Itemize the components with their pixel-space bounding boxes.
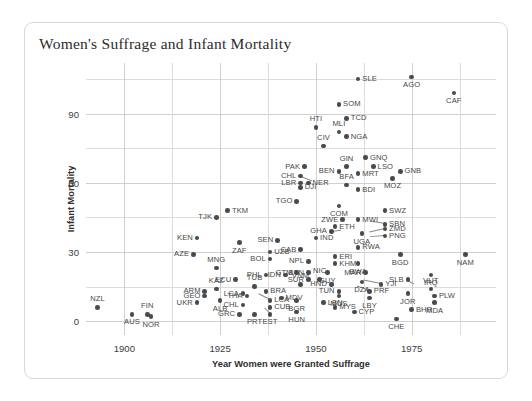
data-point: [429, 287, 434, 292]
gridline-vertical: [172, 63, 173, 335]
data-point-label: SEN: [257, 236, 273, 244]
data-point-label: NPL: [289, 257, 304, 265]
data-point: [268, 305, 273, 310]
data-point: [333, 261, 338, 266]
data-point: [325, 270, 330, 275]
data-point: [306, 181, 311, 186]
data-point: [363, 270, 368, 275]
data-point-label: BEN: [319, 167, 335, 175]
data-point: [356, 261, 361, 266]
data-point: [294, 310, 299, 315]
data-point: [130, 312, 135, 317]
y-axis-tick-label: 90: [68, 108, 79, 119]
gridline-horizontal: [86, 114, 496, 115]
data-point: [329, 229, 334, 234]
data-point: [340, 217, 345, 222]
data-point-label: NER: [312, 179, 328, 187]
data-point: [367, 289, 372, 294]
gridline-vertical: [316, 63, 317, 335]
y-axis-tick-label: 30: [68, 247, 79, 258]
data-point: [233, 277, 238, 282]
data-point-label: TKM: [232, 207, 248, 215]
data-point: [371, 164, 376, 169]
data-point: [245, 294, 250, 299]
data-point-label: TUN: [319, 287, 335, 295]
data-point-label: BDI: [362, 186, 375, 194]
x-axis-tick-label: 1900: [114, 343, 135, 354]
data-point: [202, 294, 207, 299]
data-point: [321, 144, 326, 149]
data-point-label: CAF: [446, 97, 462, 105]
data-point-label: AUS: [124, 318, 140, 326]
data-point: [268, 298, 273, 303]
data-point: [298, 181, 303, 186]
data-point-label: IND: [320, 234, 333, 242]
data-point: [321, 300, 326, 305]
data-point-label: PRT: [247, 318, 262, 326]
data-point-label: GUY: [319, 277, 336, 285]
data-point: [360, 231, 365, 236]
data-point-label: TJK: [198, 213, 212, 221]
data-point: [398, 252, 403, 257]
data-point: [337, 130, 342, 135]
data-point: [298, 247, 303, 252]
data-point: [306, 259, 311, 264]
data-point-label: NOR: [143, 321, 160, 329]
data-point-label: UKR: [177, 299, 193, 307]
data-point: [363, 155, 368, 160]
data-point: [252, 312, 257, 317]
data-point: [218, 298, 223, 303]
data-point: [383, 208, 388, 213]
data-point: [344, 164, 349, 169]
data-point: [337, 169, 342, 174]
data-point: [195, 236, 200, 241]
data-point-label: ETH: [339, 223, 355, 231]
data-point: [452, 91, 457, 96]
data-point: [237, 312, 242, 317]
data-point: [314, 125, 319, 130]
data-point-label: MLI: [332, 120, 345, 128]
data-point-label: MNG: [207, 256, 225, 264]
data-point-label: CIV: [317, 134, 330, 142]
data-point: [214, 287, 219, 292]
data-point-label: BOL: [250, 255, 266, 263]
x-axis-tick-label: 1950: [305, 343, 326, 354]
gridline-vertical: [124, 63, 125, 335]
data-point-label: BFA: [339, 173, 354, 181]
data-point-label: PHL: [247, 271, 262, 279]
data-point: [406, 277, 411, 282]
data-point: [214, 215, 219, 220]
data-point-label: CHL: [281, 172, 297, 180]
gridline-vertical: [220, 63, 221, 335]
data-point: [252, 284, 257, 289]
data-point-label: CHE: [388, 323, 404, 331]
data-point-label: HTI: [310, 115, 323, 123]
data-point: [367, 296, 372, 301]
data-point: [409, 75, 414, 80]
data-point-label: LBR: [281, 179, 296, 187]
data-point-label: HUN: [288, 316, 305, 324]
data-point-label: SWZ: [389, 207, 406, 215]
data-point: [337, 289, 342, 294]
data-point-label: SOM: [343, 100, 361, 108]
data-point: [298, 185, 303, 190]
data-point: [337, 102, 342, 107]
data-point: [344, 183, 349, 188]
data-point-label: NGA: [351, 133, 368, 141]
data-point-label: GHA: [310, 227, 327, 235]
data-point-label: PRF: [374, 287, 390, 295]
data-point-label: AGO: [403, 81, 420, 89]
data-point: [202, 289, 207, 294]
data-point-label: GNB: [404, 167, 421, 175]
data-point: [275, 238, 280, 243]
gridline-horizontal: [86, 79, 496, 80]
data-point: [406, 291, 411, 296]
x-axis-tick-label: 1975: [401, 343, 422, 354]
data-point: [383, 222, 388, 227]
scatter-plot-area: NZLAUSFINNORKENAZETJKTKMZAFMNGECUARMKAZG…: [86, 63, 496, 335]
data-point-label: NZL: [90, 295, 105, 303]
data-point: [356, 187, 361, 192]
data-point-label: CHL: [223, 301, 239, 309]
data-point-label: BGD: [392, 259, 409, 267]
data-point-label: GNQ: [370, 154, 388, 162]
